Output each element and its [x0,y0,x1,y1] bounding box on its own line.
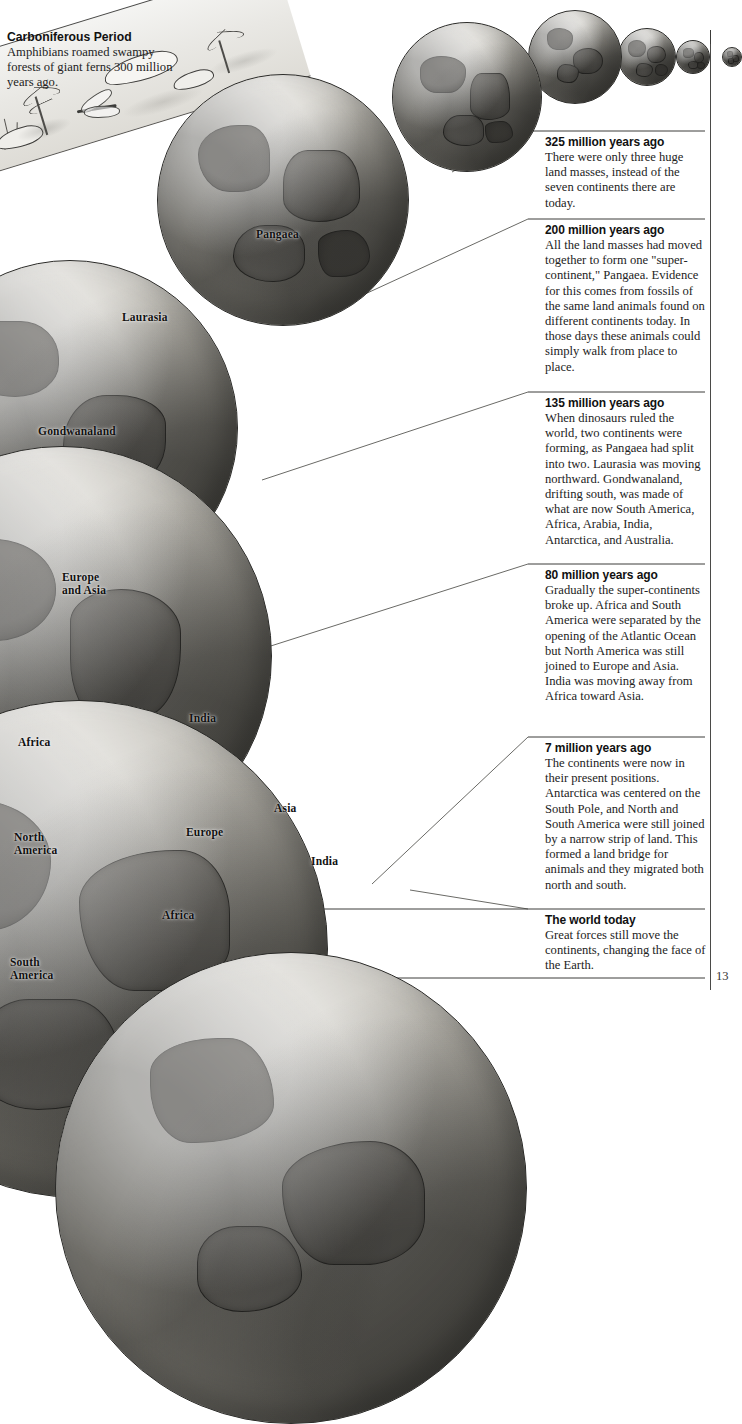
globe-highlight [723,48,741,66]
globe-highlight [158,75,408,325]
dragonfly-icon [84,106,120,119]
carboniferous-title: Carboniferous Period [7,30,187,44]
globe-label-africa: Africa [18,736,51,749]
timeline-entry-1: 325 million years agoThere were only thr… [545,135,707,211]
timeline-entry-6: The world todayGreat forces still move t… [545,913,707,974]
margin-tick [710,30,711,44]
globe-label-africa: Africa [162,909,195,922]
globe-label-north-america: North America [14,831,58,857]
page-number: 13 [716,969,729,984]
entry-title: The world today [545,913,707,927]
globe-highlight [619,29,675,85]
timeline-entry-2: 200 million years agoAll the land masses… [545,223,707,375]
globe-325m-pangaea [157,74,409,326]
timeline-entry-4: 80 million years agoGradually the super-… [545,568,707,705]
globe-highlight [529,11,621,103]
dragonfly-icon [77,104,117,113]
globe-label-india: India [311,855,338,868]
entry-title: 7 million years ago [545,741,707,755]
globe-80m [618,28,676,86]
grass-blade [16,122,17,146]
entry-body: There were only three huge land masses, … [545,150,707,211]
globe-label-europe-and-asia: Europe and Asia [62,571,106,597]
entry-body: The continents were now in their present… [545,756,707,893]
fern-icon [205,29,230,53]
grass-blade [4,119,12,148]
entry-body: Great forces still move the continents, … [545,928,707,974]
carboniferous-caption: Carboniferous Period Amphibians roamed s… [7,30,187,91]
globe-135m [528,10,622,104]
globe-highlight [393,23,541,171]
fern-icon [218,40,230,73]
globe-label-gondwanaland: Gondwanaland [38,425,116,438]
fern-icon [28,98,56,117]
globe-label-south-america: South America [10,956,54,982]
globe-label-laurasia: Laurasia [122,311,168,324]
globe-7m [676,40,710,74]
fern-icon [217,30,244,39]
globe-label-india: India [189,712,216,725]
globe-today-tiny [722,47,742,67]
entry-title: 200 million years ago [545,223,707,237]
grass-blade [0,127,6,150]
margin-rule [710,30,711,990]
timeline-entry-5: 7 million years agoThe continents were n… [545,741,707,893]
globe-bottom [55,952,527,1424]
entry-body: When dinosaurs ruled the world, two cont… [545,411,707,548]
globe-highlight [677,41,709,73]
globe-highlight [56,953,526,1423]
entry-title: 325 million years ago [545,135,707,149]
globe-label-pangaea: Pangaea [256,228,299,241]
entry-body: Gradually the super-continents broke up.… [545,583,707,705]
entry-body: All the land masses had moved together t… [545,238,707,375]
carboniferous-body: Amphibians roamed swampy forests of gian… [7,45,187,91]
globe-200m [392,22,542,172]
globe-label-asia: Asia [274,802,297,815]
entry-title: 80 million years ago [545,568,707,582]
entry-title: 135 million years ago [545,396,707,410]
timeline-entry-3: 135 million years agoWhen dinosaurs rule… [545,396,707,548]
globe-label-europe: Europe [186,826,223,839]
fern-icon [35,96,49,135]
amphibian-icon [0,121,46,153]
